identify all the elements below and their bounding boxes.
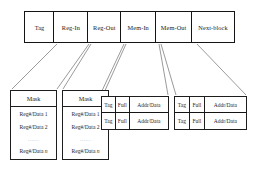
reg-in-mask-row-ellipsis: ......	[11, 137, 56, 142]
reg-in-mask-row-n-label: Reg#/Data	[19, 148, 44, 154]
mem-out-row1-tag: Tag	[175, 97, 190, 112]
block-field-tag-label: Tag	[35, 24, 45, 31]
block-structure-diagram: Tag Reg-In Reg-Out Mem-In Mem-Out Next-b…	[0, 0, 259, 171]
block-field-mem-in-label: Mem-In	[128, 24, 149, 31]
block-field-mem-out-label: Mem-Out	[161, 24, 187, 31]
reg-out-mask-row-n-label: Reg#/Data	[71, 148, 96, 154]
mem-in-row2-addr: Addr/Data	[130, 113, 168, 129]
block-field-mem-in[interactable]: Mem-In	[120, 11, 156, 43]
reg-out-mask-row-ellipsis: ......	[63, 137, 108, 142]
block-field-tag[interactable]: Tag	[24, 11, 55, 43]
table-row: Tag Full Addr/Data	[175, 113, 246, 129]
block-field-reg-in-label: Reg-In	[62, 24, 80, 31]
reg-out-mask-row-n: Reg#/Data n	[63, 149, 108, 155]
reg-in-mask-header: Mask	[11, 91, 56, 107]
reg-in-mask-row-n-index: n	[45, 148, 48, 154]
mem-out-row2-full: Full	[190, 113, 205, 129]
mem-out-detail-table: Tag Full Addr/Data Tag Full Addr/Data	[174, 96, 247, 130]
reg-in-mask-row-1-label: Reg#/Data 1	[19, 111, 47, 117]
reg-out-mask-row-2-label: Reg#/Data 2	[71, 124, 99, 130]
mem-in-detail-table: Tag Full Addr/Data Tag Full Addr/Data	[101, 96, 169, 130]
reg-in-mask-body: Reg#/Data 1 Reg#/Data 2 ...... Reg#/Data…	[11, 107, 56, 160]
reg-in-mask-row-1: Reg#/Data 1	[11, 112, 56, 118]
reg-out-mask-row-ellipsis-label: ......	[80, 137, 91, 142]
mem-out-row2-tag: Tag	[175, 113, 190, 129]
block-field-reg-in[interactable]: Reg-In	[53, 11, 88, 43]
mem-in-row1-tag: Tag	[102, 97, 116, 112]
reg-out-mask-row-n-index: n	[97, 148, 100, 154]
block-field-reg-out-label: Reg-Out	[93, 24, 115, 31]
reg-in-mask-row-2-label: Reg#/Data 2	[19, 124, 47, 130]
block-field-mem-out[interactable]: Mem-Out	[155, 11, 193, 43]
mem-in-row1-full: Full	[116, 97, 130, 112]
block-fields-row: Tag Reg-In Reg-Out Mem-In Mem-Out Next-b…	[24, 11, 233, 43]
reg-in-detail-box: Mask Reg#/Data 1 Reg#/Data 2 ...... Reg#…	[10, 90, 57, 160]
block-field-next-block-label: Next-block	[198, 24, 227, 31]
mem-out-row1-addr: Addr/Data	[205, 97, 246, 112]
table-row: Tag Full Addr/Data	[102, 113, 168, 129]
reg-in-mask-row-2: Reg#/Data 2	[11, 125, 56, 131]
mem-out-row2-addr: Addr/Data	[205, 113, 246, 129]
reg-in-mask-row-n: Reg#/Data n	[11, 149, 56, 155]
block-field-reg-out[interactable]: Reg-Out	[87, 11, 122, 43]
table-row: Tag Full Addr/Data	[175, 97, 246, 113]
block-field-next-block[interactable]: Next-block	[191, 11, 235, 43]
mem-in-row1-addr: Addr/Data	[130, 97, 168, 112]
reg-in-mask-header-label: Mask	[27, 95, 41, 102]
table-row: Tag Full Addr/Data	[102, 97, 168, 113]
mem-out-row1-full: Full	[190, 97, 205, 112]
reg-in-mask-row-ellipsis-label: ......	[28, 137, 39, 142]
mem-in-row2-full: Full	[116, 113, 130, 129]
reg-out-mask-row-1-label: Reg#/Data 1	[71, 111, 99, 117]
reg-out-mask-header-label: Mask	[79, 95, 93, 102]
mem-in-row2-tag: Tag	[102, 113, 116, 129]
